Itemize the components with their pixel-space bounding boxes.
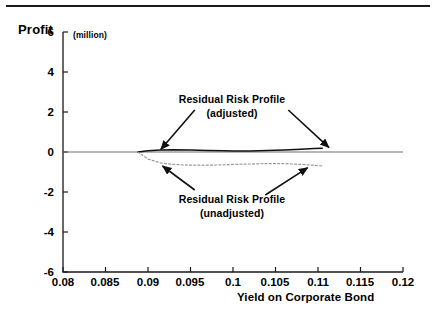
series-line xyxy=(138,152,322,166)
plot-canvas xyxy=(0,0,435,321)
annotation-arrow xyxy=(162,166,194,190)
chart-figure: Profit (million) Yield on Corporate Bond… xyxy=(0,0,435,321)
annotation-arrow xyxy=(161,110,195,150)
series-line xyxy=(138,148,322,152)
data-series-group xyxy=(138,148,322,166)
annotation-arrow xyxy=(265,168,308,195)
annotation-arrow xyxy=(288,110,329,148)
